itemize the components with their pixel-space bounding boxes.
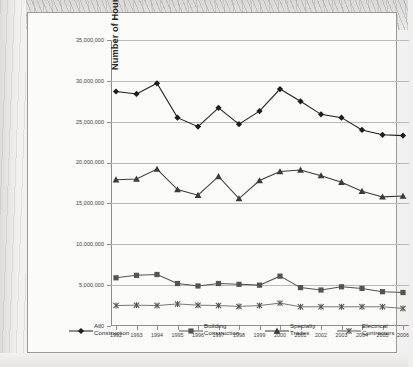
square-marker xyxy=(134,273,139,278)
triangle-marker xyxy=(256,177,263,183)
diamond-marker xyxy=(174,115,180,121)
diamond-marker xyxy=(359,127,365,133)
chart-frame: 35,000,00030,000,00025,000,00020,000,000… xyxy=(27,12,397,353)
square-marker xyxy=(216,281,221,286)
triangle-marker xyxy=(297,167,304,173)
diamond-marker xyxy=(379,132,385,138)
y-tick-label: 15,000,000 xyxy=(76,200,104,206)
square-marker xyxy=(298,285,303,290)
legend-label: Electrical Contractors xyxy=(362,322,395,337)
series-layer xyxy=(111,40,409,330)
triangle-marker xyxy=(359,188,366,194)
diamond-marker xyxy=(400,133,406,139)
diamond-marker xyxy=(338,115,344,121)
square-marker xyxy=(154,272,159,277)
diamond-marker xyxy=(78,328,84,334)
y-tick-label: 10,000,000 xyxy=(76,241,104,247)
diamond-marker xyxy=(113,88,119,94)
x-marker xyxy=(336,323,362,335)
diamond-marker xyxy=(154,80,160,86)
plot-area: 35,000,00030,000,00025,000,00020,000,000… xyxy=(111,40,409,327)
square-marker xyxy=(359,286,364,291)
square-marker xyxy=(175,281,180,286)
y-axis-title: Number of Hours Missed from Injuries and… xyxy=(110,0,120,70)
y-tick-label: 35,000,000 xyxy=(76,37,104,43)
legend-label: Specialty Trades xyxy=(290,322,316,337)
legend-item: All Construction xyxy=(68,322,129,337)
square-marker xyxy=(277,274,282,279)
square-marker xyxy=(339,284,344,289)
legend-label: Building Construction xyxy=(204,322,239,337)
diamond-marker xyxy=(133,91,139,97)
y-tick-label: 30,000,000 xyxy=(76,78,104,84)
diamond-marker xyxy=(297,98,303,104)
triangle-marker xyxy=(264,323,290,335)
legend-item: Specialty Trades xyxy=(264,322,316,337)
square-marker xyxy=(400,290,405,295)
square-marker xyxy=(178,323,204,335)
series-line xyxy=(116,169,403,198)
triangle-marker xyxy=(154,166,161,172)
square-marker xyxy=(257,283,262,288)
scan-texture-bottom xyxy=(0,353,408,367)
square-marker xyxy=(318,287,323,292)
square-marker xyxy=(195,283,200,288)
square-marker xyxy=(113,275,118,280)
diamond-marker xyxy=(318,111,324,117)
x-tick-label: 2006 xyxy=(393,332,413,338)
scan-texture-left xyxy=(0,0,26,367)
square-marker xyxy=(380,289,385,294)
square-marker xyxy=(188,328,193,333)
y-tick-label: 5,000,000 xyxy=(79,282,104,288)
legend-item: Electrical Contractors xyxy=(336,322,395,337)
y-tick-label: 20,000,000 xyxy=(76,159,104,165)
legend-item: Building Construction xyxy=(178,322,239,337)
legend-label: All Construction xyxy=(94,322,129,337)
triangle-marker xyxy=(215,173,222,179)
y-tick-label: 25,000,000 xyxy=(76,119,104,125)
square-marker xyxy=(236,282,241,287)
chart-legend: All ConstructionBuilding ConstructionSpe… xyxy=(68,322,388,346)
diamond-marker xyxy=(68,323,94,335)
